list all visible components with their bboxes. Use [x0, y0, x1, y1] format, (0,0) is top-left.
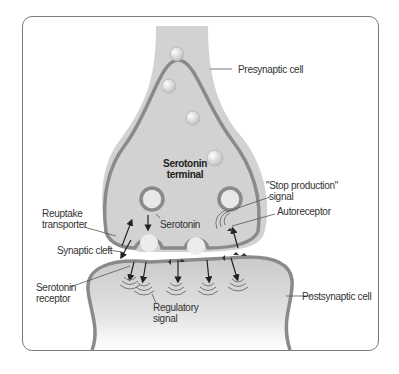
label-regulatory-line1: Regulatory [153, 302, 198, 313]
label-regulatory-signal: Regulatory signal [153, 302, 198, 324]
label-terminal-line2: terminal [155, 169, 215, 180]
label-regulatory-line2: signal [153, 313, 198, 324]
label-autoreceptor: Autoreceptor [277, 206, 331, 217]
synapse-diagram [0, 0, 399, 374]
label-stop-line1: "Stop production" [266, 180, 338, 191]
label-reuptake-line2: transporter [42, 219, 87, 230]
label-serotonin: Serotonin [160, 219, 200, 230]
label-reuptake-transporter: Reuptake transporter [42, 208, 87, 230]
label-reuptake-line1: Reuptake [42, 208, 87, 219]
label-stop-line2: signal [266, 191, 338, 202]
label-terminal-line1: Serotonin [155, 158, 215, 169]
label-serotonin-receptor: Serotonin receptor [36, 282, 76, 304]
label-receptor-line1: Serotonin [36, 282, 76, 293]
label-postsynaptic-cell: Postsynaptic cell [302, 291, 371, 302]
label-presynaptic-cell: Presynaptic cell [238, 64, 303, 75]
label-serotonin-terminal: Serotonin terminal [155, 158, 215, 180]
label-synaptic-cleft: Synaptic cleft [57, 245, 112, 256]
label-stop-production: "Stop production" signal [266, 180, 338, 202]
label-receptor-line2: receptor [36, 293, 76, 304]
